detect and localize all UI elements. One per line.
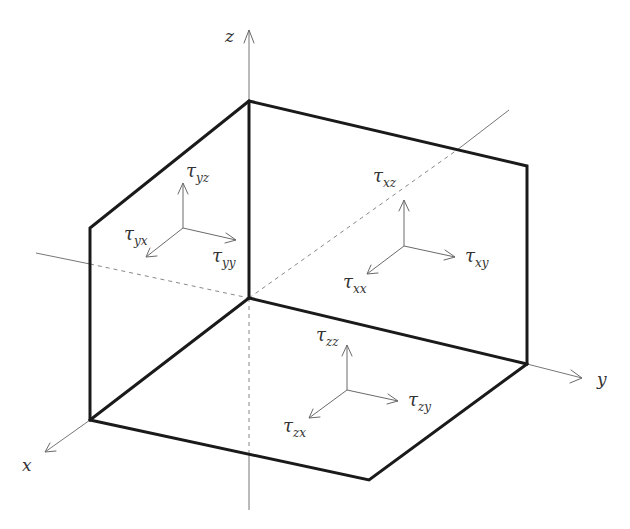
tau-yy-label: τyy (212, 245, 236, 270)
x-axis-line (45, 420, 90, 452)
tau-yx-vector (146, 228, 183, 257)
z-axis-label: z (224, 26, 235, 46)
tau-zz-label: τzz (316, 324, 339, 349)
bottom-face-outline (90, 364, 527, 480)
tau-xy-label: τxy (465, 245, 489, 270)
tau-xx-vector (367, 246, 404, 274)
tau-zx-vector (309, 390, 347, 418)
stress-tensor-diagram: τyz τyx τyy τxz τxx τxy τzz τzx τzy z x … (0, 0, 630, 529)
origin-to-right-bottom-edge (249, 298, 527, 364)
stress-group-right: τxz τxx τxy (343, 165, 489, 296)
diag-x-line-solid (457, 110, 509, 150)
tau-zx-label: τzx (283, 415, 306, 440)
cube-edges (90, 101, 527, 480)
y-axis-label: y (596, 369, 607, 389)
tau-yx-label: τyx (124, 223, 148, 248)
tau-yz-label: τyz (186, 160, 210, 185)
axes (36, 30, 582, 510)
stress-group-left: τyz τyx τyy (124, 160, 236, 270)
tau-xx-label: τxx (343, 271, 367, 296)
x-axis-label: x (22, 455, 32, 475)
tau-xz-label: τxz (373, 165, 397, 190)
diag-x-line-dashed (249, 150, 457, 298)
stress-group-bottom: τzz τzx τzy (283, 324, 431, 440)
back-y-line-solid (36, 253, 90, 264)
right-face-outline (249, 101, 527, 364)
y-axis-line (527, 364, 582, 378)
origin-to-left-bottom-edge (90, 298, 249, 420)
tau-zy-label: τzy (408, 389, 431, 414)
